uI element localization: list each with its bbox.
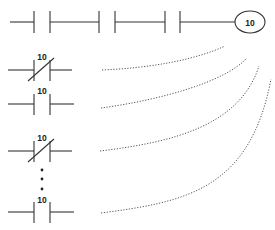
contact-label: 10 (37, 86, 47, 96)
contact-nc-1: 10 (8, 52, 72, 81)
contact-no-5: 10 (8, 195, 74, 223)
ellipsis-dots (41, 169, 44, 191)
contact-no-1 (34, 11, 50, 33)
contact-label: 10 (37, 52, 47, 62)
coil-label: 10 (245, 18, 255, 28)
ladder-diagram: 10 10 10 10 10 (0, 0, 275, 230)
connector-2 (101, 58, 247, 108)
coil: 10 (235, 11, 265, 33)
contact-no-2 (99, 11, 115, 33)
contact-nc-2: 10 (8, 133, 72, 162)
contact-label: 10 (37, 133, 47, 143)
contact-no-4: 10 (8, 86, 74, 115)
connector-1 (102, 46, 225, 70)
top-rung: 10 (10, 11, 265, 33)
contact-label: 10 (37, 195, 47, 205)
contact-no-3 (165, 11, 180, 33)
connector-3 (100, 66, 259, 151)
connector-4 (101, 79, 271, 213)
dotted-connectors (100, 46, 271, 213)
